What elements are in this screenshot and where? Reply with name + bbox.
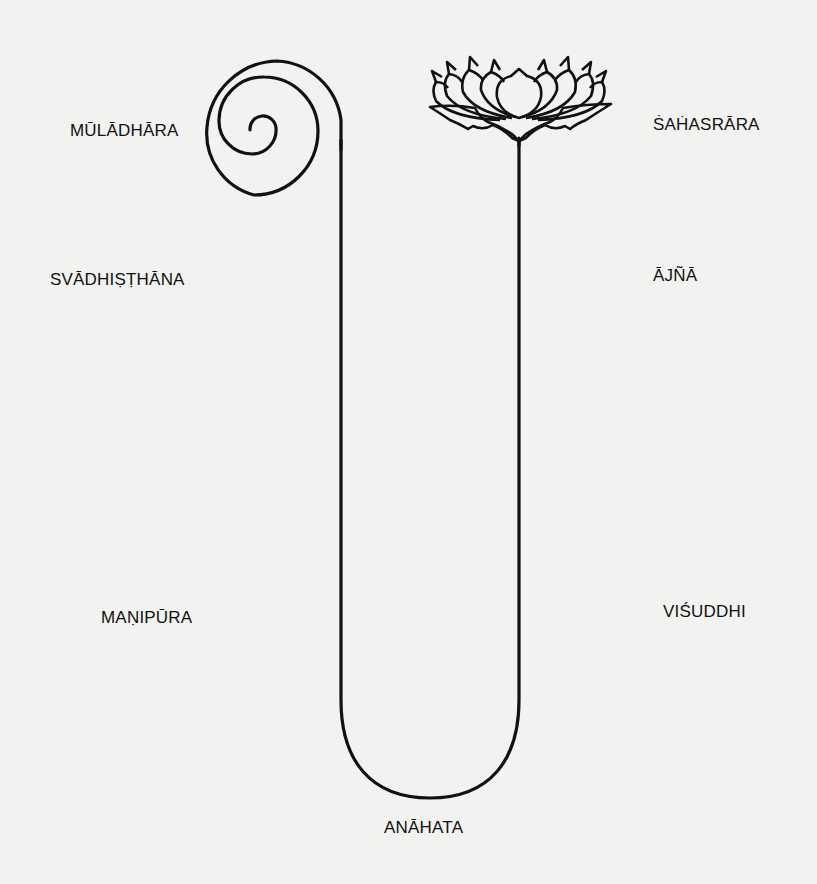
lotus-icon: [430, 57, 611, 146]
label-ajna: ĀJÑĀ: [653, 266, 697, 286]
label-anahata: ANĀHATA: [384, 818, 463, 838]
label-muladhara: MŪLĀDHĀRA: [70, 121, 179, 141]
label-svadhisthana: SVĀDHIṢṬHĀNA: [50, 270, 185, 290]
label-sahasrara: ṠAḢASRĀRA: [653, 115, 760, 135]
spiral-icon: [207, 61, 341, 195]
chakra-diagram: MŪLĀDHĀRA SVĀDHIṢṬHĀNA MAṆIPŪRA ANĀHATA …: [0, 0, 817, 884]
channel-u-shape: [341, 140, 519, 798]
label-manipura: MAṆIPŪRA: [101, 608, 192, 628]
label-visuddhi: VIŚUDDHI: [663, 602, 746, 622]
